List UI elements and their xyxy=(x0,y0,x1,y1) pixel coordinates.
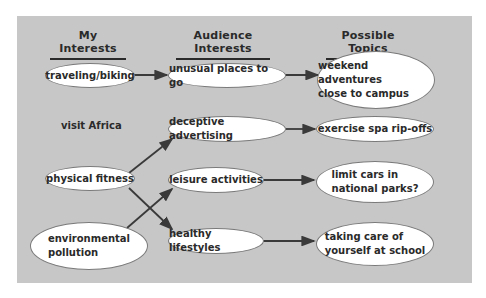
node-label: healthy lifestyles xyxy=(169,227,263,255)
node-leisure-activities[interactable]: leisure activities xyxy=(168,167,264,193)
node-label: environmental pollution xyxy=(48,232,130,260)
node-label: exercise spa rip-offs xyxy=(318,122,432,136)
node-visit-africa: visit Africa xyxy=(61,120,122,131)
node-label: taking care of yourself at school xyxy=(325,230,426,258)
node-limit-cars[interactable]: limit cars in national parks? xyxy=(316,161,434,203)
node-label: leisure activities xyxy=(169,173,263,187)
node-physical-fitness[interactable]: physical fitness xyxy=(45,166,135,191)
node-healthy-lifestyles[interactable]: healthy lifestyles xyxy=(168,228,264,254)
node-deceptive-advertising[interactable]: deceptive advertising xyxy=(168,116,286,142)
node-label: traveling/biking xyxy=(45,69,135,83)
node-label: deceptive advertising xyxy=(169,115,285,143)
node-label: weekend adventures close to campus xyxy=(318,59,434,101)
node-traveling-biking[interactable]: traveling/biking xyxy=(45,63,135,88)
node-taking-care[interactable]: taking care of yourself at school xyxy=(316,222,434,266)
node-label: physical fitness xyxy=(46,172,134,186)
node-exercise-spa[interactable]: exercise spa rip-offs xyxy=(316,116,434,142)
node-environmental-pollution[interactable]: environmental pollution xyxy=(30,222,148,270)
node-label: limit cars in national parks? xyxy=(332,168,419,196)
node-label: unusual places to go xyxy=(169,62,285,90)
node-unusual-places[interactable]: unusual places to go xyxy=(168,63,286,88)
node-weekend-adventures[interactable]: weekend adventures close to campus xyxy=(317,51,435,109)
